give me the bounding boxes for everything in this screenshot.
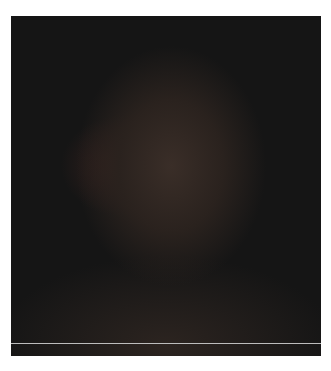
clinical-photo (11, 16, 321, 356)
divider-line (11, 343, 321, 344)
photo-frame: Clinical photograph of a patient's face … (11, 16, 321, 356)
